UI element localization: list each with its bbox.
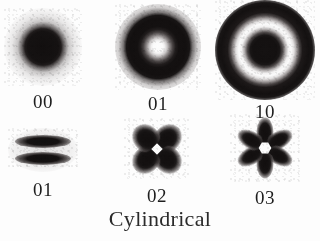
- mode-pattern-clover: [124, 118, 190, 180]
- six-petal-star-pattern: [230, 114, 300, 182]
- mode-cell-bottom-2: 02: [124, 118, 190, 205]
- mode-label-bottom-1: 01: [33, 180, 53, 199]
- petal-4: [127, 119, 164, 156]
- four-petal-clover-pattern: [124, 118, 190, 180]
- bullseye-pattern: [215, 0, 315, 100]
- mode-label-top-1: 00: [33, 92, 53, 111]
- mode-pattern-00: [4, 8, 82, 86]
- mode-pattern-two-lobe: [8, 128, 78, 172]
- two-horizontal-lobes-pattern: [8, 128, 78, 172]
- filled-disk-pattern: [4, 8, 82, 86]
- figure-caption: Cylindrical: [0, 206, 320, 232]
- cylindrical-modes-figure: 00 01 10 01: [0, 0, 320, 241]
- mode-label-top-2: 01: [148, 94, 168, 113]
- mode-pattern-star6: [230, 114, 300, 182]
- mode-pattern-01-ring: [115, 4, 201, 90]
- lobe-upper: [15, 135, 71, 148]
- mode-cell-bottom-3: 03: [230, 114, 300, 207]
- mode-label-bottom-2: 02: [147, 186, 167, 205]
- lobe-lower: [15, 152, 71, 165]
- mode-cell-bottom-1: 01: [8, 128, 78, 199]
- mode-cell-top-1: 00: [3, 8, 83, 111]
- mode-pattern-10: [215, 0, 315, 100]
- mode-cell-top-2: 01: [115, 4, 201, 113]
- mode-label-bottom-3: 03: [255, 188, 275, 207]
- mode-cell-top-3: 10: [215, 0, 315, 121]
- annulus-bright-core-pattern: [115, 4, 201, 90]
